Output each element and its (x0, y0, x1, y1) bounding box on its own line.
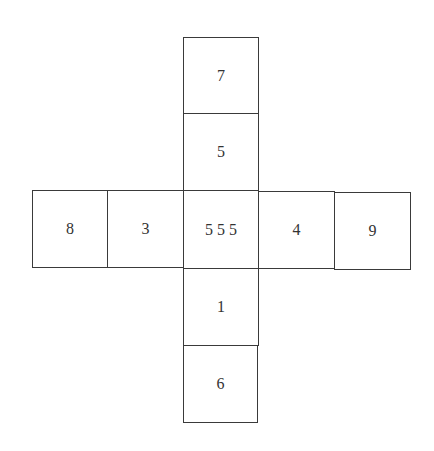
cell-label: 9 (369, 222, 377, 240)
cell-label: 5 (217, 143, 225, 161)
cell-label: 4 (293, 221, 301, 239)
cell-label: 5 5 5 (205, 221, 237, 239)
net-cell-center: 5 5 5 (183, 190, 259, 269)
cell-label: 8 (66, 220, 74, 238)
net-cell-top: 7 (183, 37, 259, 114)
cell-label: 6 (217, 375, 225, 393)
net-cell-right: 4 (258, 191, 335, 269)
net-cell-lower: 1 (183, 268, 259, 346)
net-cell-left: 3 (107, 190, 184, 268)
net-cell-bottom: 6 (183, 345, 258, 423)
cell-label: 3 (142, 220, 150, 238)
net-cell-far-right: 9 (334, 192, 411, 270)
cell-label: 1 (217, 298, 225, 316)
net-cell-upper: 5 (183, 113, 259, 191)
cell-label: 7 (217, 67, 225, 85)
net-cell-far-left: 8 (32, 190, 108, 268)
